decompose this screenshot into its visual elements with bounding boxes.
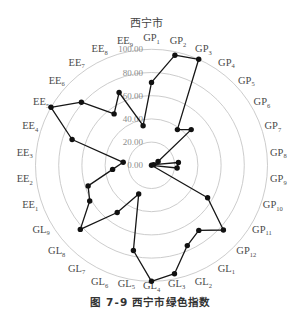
data-point	[172, 271, 177, 276]
data-point	[79, 100, 84, 105]
axis-label-prefix: GP	[264, 120, 278, 131]
axis-label: EE1	[22, 199, 38, 212]
axis-label-prefix: GL	[118, 278, 132, 289]
axis-label: GL6	[91, 276, 109, 289]
r-tick-label: 20.00	[123, 137, 144, 147]
axis-label-subscript: 6	[267, 102, 271, 109]
axis-label-prefix: GL	[91, 276, 105, 287]
data-point	[176, 160, 181, 165]
axis-label-subscript: 11	[265, 229, 271, 236]
caption-text: 西宁市绿色指数	[132, 296, 210, 308]
axis-label: EE7	[69, 57, 86, 70]
axis-label: EE5	[33, 96, 49, 109]
axis-label: GL9	[32, 224, 49, 237]
axis-label-subscript: 4	[157, 286, 161, 293]
axis-label-subscript: 9	[46, 229, 49, 236]
axis-label: GP7	[264, 120, 281, 133]
data-point	[149, 80, 154, 85]
axis-label-prefix: EE	[17, 173, 30, 184]
axis-label: GP8	[270, 147, 287, 160]
data-point	[121, 160, 126, 165]
axis-label-prefix: GP	[236, 245, 250, 256]
axis-label: GP6	[254, 96, 271, 109]
data-point	[155, 159, 160, 164]
figure: 西宁市 0.0020.0040.0060.0080.00100.00 GP1GP…	[0, 0, 300, 322]
data-point	[116, 90, 121, 95]
axis-label-subscript: 12	[250, 251, 256, 258]
axis-label: GP11	[252, 224, 272, 237]
axis-label-prefix: GP	[252, 224, 266, 235]
data-point	[221, 227, 226, 232]
axis-label: GL8	[48, 245, 65, 258]
axis-label: GP1	[143, 32, 160, 45]
r-tick-label: 80.00	[123, 68, 144, 78]
radial-tick-labels: 0.0020.0040.0060.0080.00100.00	[118, 44, 143, 170]
axis-label-prefix: GP	[143, 32, 157, 43]
caption-number: 图 7-9	[90, 296, 129, 308]
axis-label-subscript: 1	[35, 205, 38, 212]
axis-label: GL2	[195, 276, 212, 289]
axis-label-subscript: 4	[231, 62, 235, 69]
axis-label: GL1	[218, 263, 235, 276]
axis-label-subscript: 6	[61, 80, 65, 87]
data-point	[172, 53, 177, 58]
axis-label-subscript: 8	[62, 251, 65, 258]
axis-label: GL3	[168, 278, 185, 291]
axis-label: GP5	[238, 75, 255, 88]
axis-label-subscript: 2	[29, 179, 32, 186]
data-point	[131, 248, 136, 253]
data-point	[69, 137, 74, 142]
axis-label: EE4	[22, 120, 39, 133]
axis-label-prefix: GP	[170, 35, 184, 46]
axis-label-prefix: GP	[238, 75, 252, 86]
data-point	[136, 191, 141, 196]
axis-label-prefix: GP	[270, 173, 284, 184]
axis-label-subscript: 4	[35, 126, 39, 133]
data-point	[185, 243, 190, 248]
data-point	[85, 183, 90, 188]
data-point	[196, 57, 201, 62]
axis-label-prefix: EE	[49, 75, 62, 86]
axis-label: GP12	[236, 245, 256, 258]
data-point	[111, 111, 116, 116]
axis-label-prefix: EE	[92, 43, 105, 54]
axis-label-subscript: 3	[208, 49, 211, 56]
axis-label-subscript: 8	[283, 152, 286, 159]
axis-label: GP9	[270, 173, 287, 186]
data-point	[48, 105, 53, 110]
r-tick-label: 60.00	[123, 91, 144, 101]
axis-label-subscript: 6	[105, 282, 109, 289]
axis-label-prefix: GL	[48, 245, 62, 256]
axis-label-prefix: GP	[218, 57, 232, 68]
data-point	[174, 165, 179, 170]
data-point	[196, 228, 201, 233]
axis-label-subscript: 2	[183, 41, 186, 48]
axis-label-prefix: GL	[195, 276, 209, 287]
axis-label: EE9	[117, 35, 133, 48]
axis-label-prefix: GP	[195, 43, 209, 54]
axis-label-subscript: 9	[130, 41, 133, 48]
data-point	[78, 227, 83, 232]
axis-label: EE2	[17, 173, 33, 186]
data-point	[175, 127, 180, 132]
chart-title: 西宁市	[130, 16, 163, 30]
data-point	[87, 198, 92, 203]
axis-label: GP4	[218, 57, 235, 70]
radar-chart: 西宁市 0.0020.0040.0060.0080.00100.00 GP1GP…	[0, 0, 300, 322]
axis-label-prefix: EE	[22, 199, 35, 210]
axis-label-subscript: 7	[81, 62, 85, 69]
axis-label: EE3	[17, 147, 33, 160]
data-point	[189, 127, 194, 132]
axis-label-prefix: EE	[117, 35, 130, 46]
axis-label-subscript: 5	[251, 80, 254, 87]
axis-label: GL7	[68, 263, 86, 276]
axis-label-subscript: 7	[82, 268, 86, 275]
data-point	[205, 195, 210, 200]
axis-label-prefix: GL	[168, 278, 182, 289]
figure-caption: 图 7-9 西宁市绿色指数	[90, 296, 210, 308]
axis-label-prefix: GP	[263, 199, 277, 210]
r-tick-label: 0.00	[127, 160, 143, 170]
axis-label-prefix: GP	[254, 96, 268, 107]
data-point	[110, 167, 115, 172]
axis-label-prefix: GL	[32, 224, 46, 235]
